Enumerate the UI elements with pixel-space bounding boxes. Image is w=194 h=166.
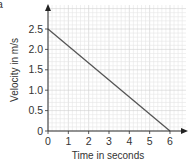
y-axis-title: Velocity in m/s	[9, 38, 20, 102]
x-tick-label: 1	[65, 135, 71, 147]
x-tick-label: 5	[147, 135, 153, 147]
y-tick-label: 0	[37, 125, 43, 137]
x-tick-label: 0	[45, 135, 51, 147]
x-tick-labels: 0123456	[45, 135, 173, 147]
y-tick-label: 2.5	[28, 23, 43, 35]
velocity-time-chart: 0123456 00.51.01.52.02.5 Time in seconds…	[0, 0, 194, 166]
y-tick-label: 1.0	[28, 84, 43, 96]
y-tick-label: 2.0	[28, 43, 43, 55]
y-tick-label: 0.5	[28, 104, 43, 116]
y-tick-label: 1.5	[28, 63, 43, 75]
chart-grid	[48, 5, 186, 131]
axis-ticks	[45, 29, 170, 134]
panel-letter: a	[0, 0, 3, 10]
x-tick-label: 2	[86, 135, 92, 147]
x-tick-label: 4	[126, 135, 132, 147]
x-axis-title: Time in seconds	[72, 150, 144, 161]
y-axis-arrow-icon	[45, 4, 51, 11]
y-axis	[45, 4, 51, 131]
y-tick-labels: 00.51.01.52.02.5	[28, 23, 43, 137]
x-tick-label: 3	[106, 135, 112, 147]
x-tick-label: 6	[167, 135, 173, 147]
x-axis-arrow-icon	[181, 128, 188, 134]
